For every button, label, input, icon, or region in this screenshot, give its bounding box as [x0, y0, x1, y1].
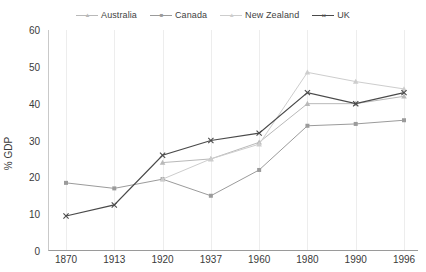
data-point-marker	[305, 70, 311, 75]
legend-item-label: Australia	[101, 10, 137, 20]
x-tick-label-1996: 1996	[393, 254, 415, 265]
legend-item-canada[interactable]: ■Canada	[150, 10, 207, 20]
y-axis-tick-labels: % GDP 0102030405060	[0, 30, 44, 251]
data-point-marker	[354, 122, 358, 126]
line-chart: ▲Australia■Canada▲New Zealand×UK % GDP 0…	[0, 0, 426, 272]
series-line	[66, 93, 404, 216]
data-point-marker	[402, 118, 406, 122]
line-marker-triangle-icon: ▲	[220, 11, 242, 20]
y-tick-label-50: 50	[29, 61, 40, 72]
series-line	[163, 96, 404, 162]
series-canada	[64, 118, 406, 198]
data-point-marker	[64, 181, 68, 185]
y-tick-label-20: 20	[29, 172, 40, 183]
x-tick-label-1990: 1990	[345, 254, 367, 265]
legend-item-uk[interactable]: ×UK	[312, 10, 350, 20]
series-new-zealand	[160, 70, 407, 182]
x-axis-tick-labels: 18701913192019371960198019901996	[48, 254, 418, 270]
legend-item-new-zealand[interactable]: ▲New Zealand	[220, 10, 299, 20]
series-uk	[63, 90, 406, 219]
data-point-marker	[209, 194, 213, 198]
x-tick-label-1920: 1920	[151, 254, 173, 265]
data-point-marker	[257, 168, 261, 172]
legend-item-australia[interactable]: ▲Australia	[76, 10, 137, 20]
legend-item-label: New Zealand	[245, 10, 299, 20]
x-tick-label-1980: 1980	[296, 254, 318, 265]
y-tick-label-60: 60	[29, 25, 40, 36]
y-axis-title: % GDP	[3, 137, 14, 170]
x-tick-label-1960: 1960	[248, 254, 270, 265]
x-tick-label-1937: 1937	[200, 254, 222, 265]
y-tick-label-30: 30	[29, 135, 40, 146]
y-tick-label-10: 10	[29, 209, 40, 220]
chart-legend: ▲Australia■Canada▲New Zealand×UK	[0, 6, 426, 24]
x-tick-label-1870: 1870	[55, 254, 77, 265]
y-tick-label-0: 0	[34, 246, 40, 257]
legend-item-label: Canada	[175, 10, 207, 20]
plot-area	[48, 30, 418, 251]
x-tick-label-1913: 1913	[103, 254, 125, 265]
line-marker-triangle-icon: ▲	[76, 11, 98, 20]
data-point-marker	[305, 124, 309, 128]
line-marker-square-icon: ■	[150, 11, 172, 20]
legend-item-label: UK	[337, 10, 350, 20]
y-tick-label-40: 40	[29, 98, 40, 109]
series-line	[66, 120, 404, 196]
series-line	[163, 72, 404, 179]
data-point-marker	[112, 186, 116, 190]
line-marker-cross-icon: ×	[312, 11, 334, 20]
series-layer	[48, 30, 418, 251]
series-australia	[160, 94, 407, 165]
